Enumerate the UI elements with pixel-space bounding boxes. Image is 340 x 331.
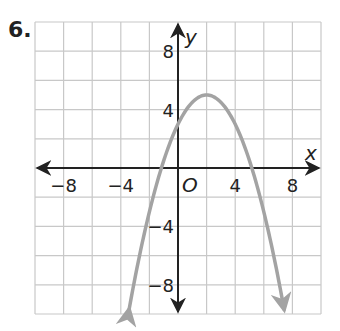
y-tick-label: −8 <box>147 275 174 296</box>
x-tick-label: −8 <box>50 175 77 196</box>
x-axis-label: x <box>304 141 317 165</box>
y-axis-label: y <box>184 25 198 49</box>
x-tick-label: 4 <box>229 175 240 196</box>
x-tick-label: −4 <box>108 175 135 196</box>
parabola-graph: xyO−8−44884−4−8 <box>0 0 340 331</box>
y-tick-label: 4 <box>163 100 174 121</box>
x-tick-label: 8 <box>287 175 298 196</box>
y-tick-label: −4 <box>147 216 174 237</box>
origin-label: O <box>182 173 198 197</box>
y-tick-label: 8 <box>163 41 174 62</box>
